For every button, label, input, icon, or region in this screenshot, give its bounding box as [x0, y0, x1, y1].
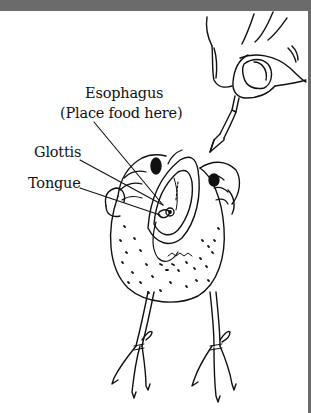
esophagus-note-label: (Place food here) — [60, 104, 182, 122]
bird-feeding-illustration — [0, 0, 311, 413]
breast-speckles — [120, 226, 219, 293]
brush-applicator — [210, 96, 239, 152]
hand-illustration — [206, 12, 306, 98]
tongue-label: Tongue — [28, 174, 81, 192]
esophagus-label: Esophagus — [85, 84, 163, 102]
right-eye — [209, 174, 219, 186]
left-leg — [112, 292, 154, 398]
tongue-leader — [80, 188, 160, 215]
right-leg — [192, 292, 236, 402]
beak-base-feathers — [168, 253, 192, 256]
left-eye — [151, 158, 161, 174]
glottis-label: Glottis — [34, 143, 81, 161]
